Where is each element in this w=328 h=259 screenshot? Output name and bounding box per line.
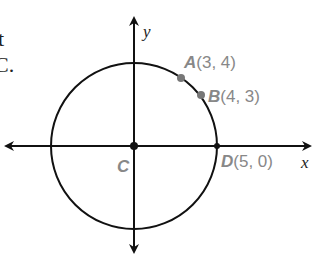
point-c: [130, 142, 138, 150]
center-label: C: [117, 157, 130, 176]
point-b: [197, 91, 205, 99]
y-axis-label: y: [141, 22, 151, 41]
point-b-label: B(4, 3): [208, 87, 260, 106]
x-axis-label: x: [300, 153, 309, 172]
coordinate-diagram: t C. y x A(3, 4) B(4, 3) C D(5, 0): [0, 0, 328, 259]
point-a-label: A(3, 4): [183, 53, 236, 72]
point-a: [177, 74, 185, 82]
text-fragment-1: t: [0, 26, 4, 51]
point-d: [214, 143, 220, 149]
text-fragment-2: C.: [0, 52, 14, 77]
point-d-label: D(5, 0): [221, 152, 273, 171]
